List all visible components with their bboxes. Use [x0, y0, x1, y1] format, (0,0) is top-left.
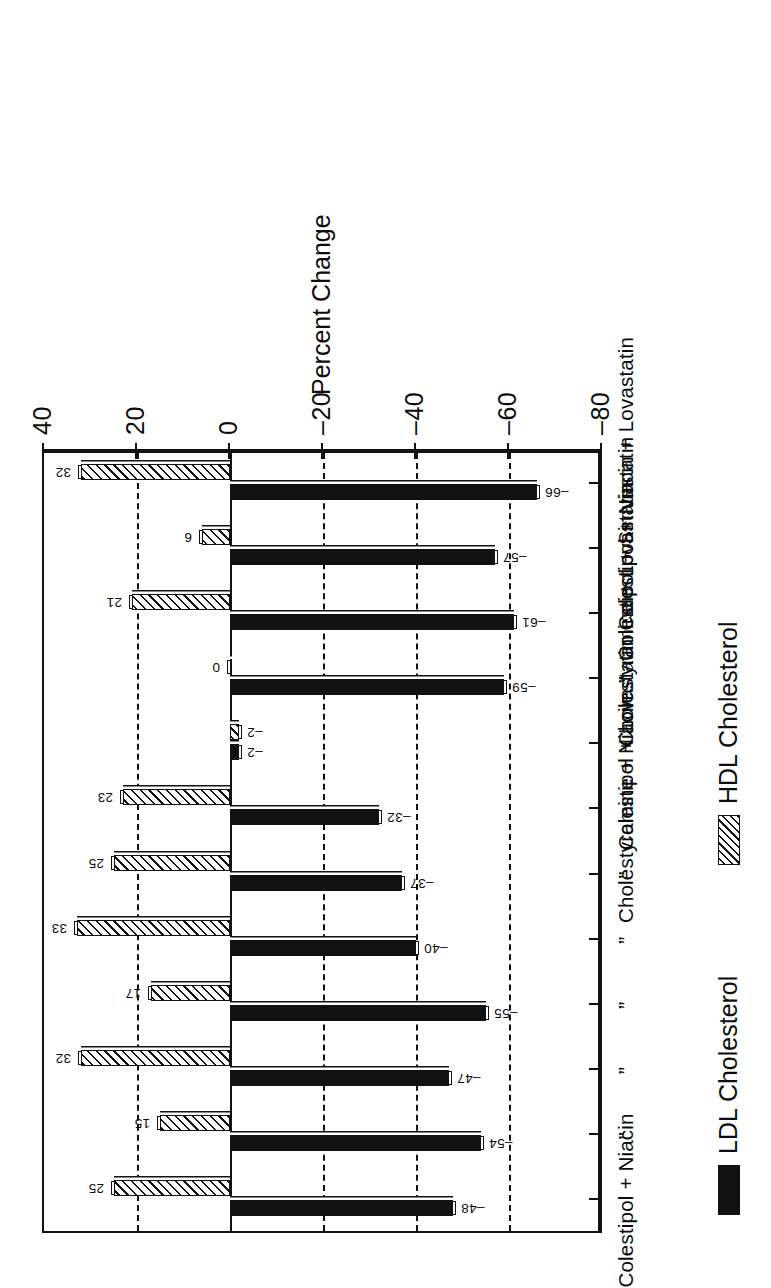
- bar-value-label: –2: [247, 746, 263, 760]
- bar-group: –590: [44, 659, 598, 695]
- bar-group: –6121: [44, 594, 598, 630]
- bar-group: –5517: [44, 985, 598, 1021]
- category-axis-tick: [589, 742, 600, 744]
- category-axis-tick: [589, 807, 600, 809]
- category-label: ”: [614, 936, 640, 944]
- bar-top-cap: [78, 465, 82, 479]
- legend-item-ldl: LDL Cholesterol: [714, 976, 743, 1215]
- bar-hdl: [160, 1115, 230, 1131]
- bar-ldl: [230, 875, 402, 891]
- bar-ldl: [230, 1005, 486, 1021]
- bar-top-cap: [148, 986, 152, 1000]
- bar-value-label: 17: [125, 986, 141, 1000]
- bar-value-label: 32: [56, 1052, 72, 1066]
- bar-hdl: [132, 594, 230, 610]
- legend-swatch-hdl-icon: [718, 815, 740, 865]
- bar-value-label: –47: [457, 1072, 480, 1086]
- bar-value-label: –61: [522, 615, 545, 629]
- bar-top-cap: [415, 941, 419, 955]
- bar-ldl: [230, 484, 537, 500]
- value-axis-title-text: Percent Change: [307, 214, 336, 395]
- chart-legend: LDL Cholesterol HDL Cholesterol: [706, 449, 766, 1233]
- bar-top-cap: [238, 745, 242, 759]
- bar-group: –5415: [44, 1115, 598, 1151]
- bar-group: –2–2: [44, 724, 598, 760]
- bar-group: –4825: [44, 1180, 598, 1216]
- category-axis-tick: [589, 547, 600, 549]
- bar-value-label: –48: [461, 1202, 484, 1216]
- bar-value-label: 25: [88, 1182, 104, 1196]
- category-axis-tick: [589, 873, 600, 875]
- category-axis-tick: [589, 1003, 600, 1005]
- category-axis-tick: [589, 612, 600, 614]
- bar-value-label: –66: [545, 485, 568, 499]
- bar-hdl: [81, 464, 230, 480]
- bar-top-cap: [503, 680, 507, 694]
- bar-hdl: [230, 724, 239, 740]
- category-label: Colestipol + Niacin: [614, 1113, 638, 1287]
- bar-top-cap: [480, 1136, 484, 1150]
- bar-ldl: [230, 1135, 481, 1151]
- bar-group: –4033: [44, 920, 598, 956]
- bar-ldl: [230, 940, 416, 956]
- category-label: ”: [614, 1066, 640, 1074]
- bar-ldl: [230, 549, 495, 565]
- bar-top-cap: [513, 615, 517, 629]
- bar-value-label: –32: [387, 811, 410, 825]
- bar-value-label: 15: [135, 1117, 151, 1131]
- bar-top-cap: [129, 595, 133, 609]
- bar-value-label: –57: [503, 550, 526, 564]
- bar-top-cap: [494, 550, 498, 564]
- bar-hdl: [114, 1180, 230, 1196]
- legend-label-hdl: HDL Cholesterol: [714, 622, 743, 804]
- bar-hdl: [123, 789, 230, 805]
- legend-swatch-ldl-icon: [718, 1165, 740, 1215]
- bar-hdl: [81, 1050, 230, 1066]
- bar-top-cap: [120, 790, 124, 804]
- bar-value-label: –2: [247, 726, 263, 740]
- plot-frame: –4825–5415–4732–5517–4033–3725–3223–2–2–…: [42, 451, 600, 1233]
- bar-value-label: –40: [424, 941, 447, 955]
- category-label: ”: [614, 1131, 640, 1139]
- category-axis-tick: [589, 938, 600, 940]
- bar-value-label: 33: [51, 921, 67, 935]
- bar-hdl: [151, 985, 230, 1001]
- bar-value-label: –55: [494, 1006, 517, 1020]
- category-axis-tick: [589, 677, 600, 679]
- bar-value-label: 32: [56, 465, 72, 479]
- bar-group: –6632: [44, 464, 598, 500]
- category-axis-tick: [589, 1133, 600, 1135]
- bar-top-cap: [448, 1071, 452, 1085]
- bar-group: –3725: [44, 855, 598, 891]
- bar-ldl: [230, 614, 514, 630]
- bar-value-label: –37: [410, 876, 433, 890]
- bar-top-cap: [111, 1181, 115, 1195]
- bar-ldl: [230, 1200, 453, 1216]
- category-label: ”: [614, 1001, 640, 1009]
- bar-top-cap: [536, 485, 540, 499]
- bar-value-label: 21: [107, 595, 123, 609]
- bar-value-label: 25: [88, 856, 104, 870]
- value-axis-title: Percent Change: [42, 411, 600, 451]
- bar-ldl: [230, 1070, 449, 1086]
- bar-ldl: [230, 679, 504, 695]
- bar-top-cap: [111, 856, 115, 870]
- bar-top-cap: [378, 810, 382, 824]
- category-axis-tick: [589, 482, 600, 484]
- category-axis-tick: [589, 1198, 600, 1200]
- legend-label-ldl: LDL Cholesterol: [714, 976, 743, 1154]
- bar-top-cap: [485, 1006, 489, 1020]
- bar-top-cap: [452, 1201, 456, 1215]
- bar-value-label: –54: [489, 1137, 512, 1151]
- bar-group: –576: [44, 529, 598, 565]
- bar-hdl: [77, 920, 230, 936]
- bar-top-cap: [401, 876, 405, 890]
- bar-hdl: [230, 659, 232, 675]
- bar-top-cap: [238, 725, 242, 739]
- legend-item-hdl: HDL Cholesterol: [714, 622, 743, 865]
- bar-top-cap: [227, 660, 231, 674]
- bar-group: –3223: [44, 789, 598, 825]
- bar-hdl: [202, 529, 230, 545]
- bar-top-cap: [157, 1116, 161, 1130]
